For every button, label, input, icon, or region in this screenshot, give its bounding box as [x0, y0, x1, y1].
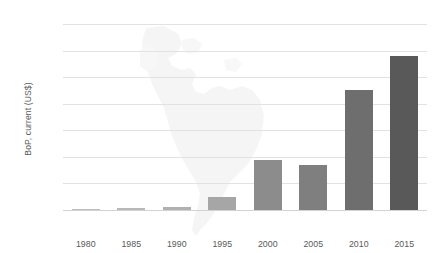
bar-2000	[254, 160, 282, 210]
y-axis-title: BoP, current (US$)	[23, 44, 33, 194]
bar-2010	[345, 90, 373, 210]
bar-2005	[299, 165, 327, 210]
plot-area: 05E+101E+111.5E+112E+112.5E+113E+113.5E+…	[63, 24, 427, 210]
bar-1980	[72, 209, 100, 210]
gridline	[63, 210, 427, 211]
bar-1990	[163, 207, 191, 210]
bar-1995	[208, 197, 236, 210]
bar-chart: BoP, current (US$) 05E+101E+111.5E+112E+…	[0, 0, 435, 253]
bar-series	[63, 24, 427, 210]
bar-2015	[390, 56, 418, 210]
x-tick-label: 2015	[374, 239, 434, 249]
bar-1985	[117, 208, 145, 210]
